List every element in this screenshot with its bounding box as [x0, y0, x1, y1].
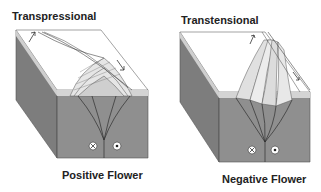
- positive-flower-block: [16, 30, 148, 158]
- into-page-symbol-right: [248, 146, 256, 154]
- negative-flower-block: [180, 32, 310, 162]
- flower-structure-diagrams: [0, 0, 321, 192]
- into-page-symbol-left: [89, 142, 97, 150]
- out-of-page-symbol-right: [271, 146, 279, 154]
- caption-positive-flower: Positive Flower: [62, 169, 143, 181]
- out-of-page-symbol-left: [113, 142, 121, 150]
- caption-negative-flower: Negative Flower: [222, 173, 306, 185]
